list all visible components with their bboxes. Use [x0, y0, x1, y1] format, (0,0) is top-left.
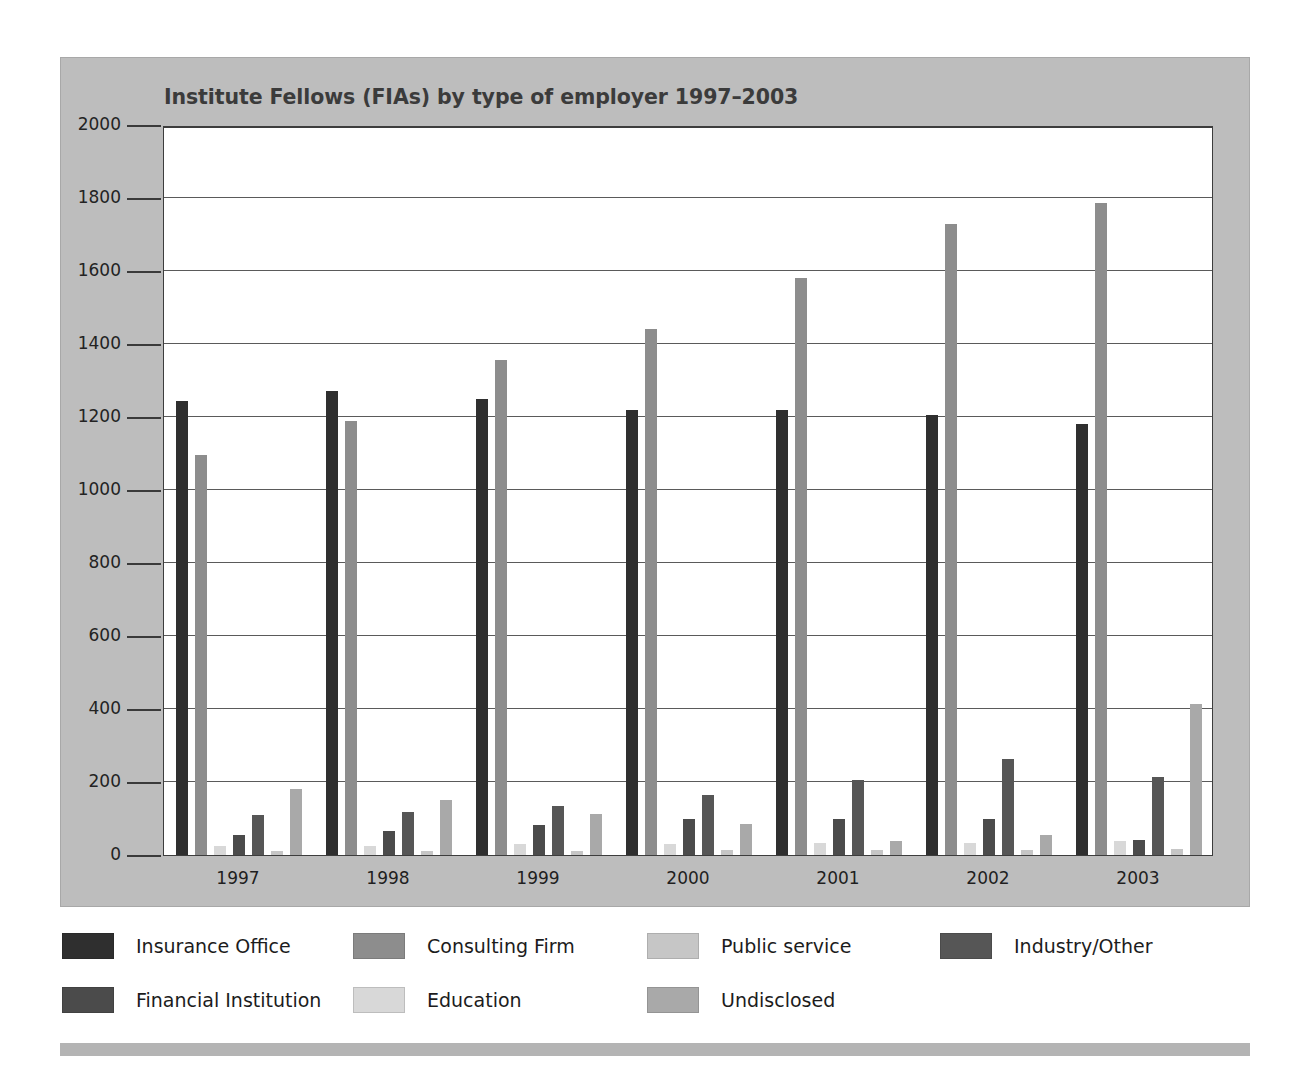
bar [776, 410, 788, 855]
y-axis-tick-mark [127, 855, 161, 857]
gridline [164, 416, 1212, 417]
gridline [164, 781, 1212, 782]
bar [476, 399, 488, 855]
legend-item[interactable]: Financial Institution [62, 987, 321, 1013]
y-axis-tick-mark [127, 125, 161, 127]
bar [721, 850, 733, 855]
legend-item-label: Public service [721, 935, 851, 957]
chart-page: Institute Fellows (FIAs) by type of empl… [0, 0, 1310, 1085]
bar [271, 851, 283, 855]
x-axis-tick-label: 1997 [163, 868, 313, 888]
gridline [164, 562, 1212, 563]
bar [495, 360, 507, 855]
bar [252, 815, 264, 855]
legend-item-label: Education [427, 989, 522, 1011]
y-axis-tick-mark [127, 271, 161, 273]
x-axis-tick-label: 2000 [613, 868, 763, 888]
bar [683, 819, 695, 855]
legend-item[interactable]: Undisclosed [647, 987, 835, 1013]
bar [983, 819, 995, 855]
bar [552, 806, 564, 855]
plot-area [163, 126, 1213, 856]
x-axis-tick-label: 2001 [763, 868, 913, 888]
bar [533, 825, 545, 855]
legend-swatch-icon [353, 987, 405, 1013]
y-axis-tick-label: 0 [61, 844, 125, 864]
x-axis: 1997199819992000200120022003 [163, 856, 1213, 904]
legend-item[interactable]: Public service [647, 933, 851, 959]
y-axis-tick-label: 600 [61, 625, 125, 645]
gridline [164, 635, 1212, 636]
bar [702, 795, 714, 855]
legend-item[interactable]: Insurance Office [62, 933, 291, 959]
bar [926, 415, 938, 855]
bottom-rule [60, 1043, 1250, 1056]
legend-item[interactable]: Industry/Other [940, 933, 1153, 959]
bar [626, 410, 638, 855]
bar [514, 844, 526, 855]
bar [833, 819, 845, 855]
y-axis-tick-mark [127, 198, 161, 200]
legend-swatch-icon [647, 987, 699, 1013]
bar [1171, 849, 1183, 855]
x-axis-tick-label: 1998 [313, 868, 463, 888]
y-axis-tick-mark [127, 782, 161, 784]
y-axis-tick-label: 1600 [61, 260, 125, 280]
legend-swatch-icon [940, 933, 992, 959]
bar [571, 851, 583, 855]
bar [852, 780, 864, 855]
gridline [164, 708, 1212, 709]
legend-swatch-icon [62, 933, 114, 959]
gridline [164, 270, 1212, 271]
gridline [164, 197, 1212, 198]
y-axis-tick-label: 1200 [61, 406, 125, 426]
bar [214, 846, 226, 855]
bar [1190, 704, 1202, 855]
bar [1133, 840, 1145, 855]
bar [795, 278, 807, 855]
bar [326, 391, 338, 855]
bar [290, 789, 302, 855]
bar [740, 824, 752, 855]
bar [345, 421, 357, 855]
bar [590, 814, 602, 855]
y-axis-tick-label: 2000 [61, 114, 125, 134]
legend-item-label: Insurance Office [136, 935, 291, 957]
y-axis-tick-mark [127, 636, 161, 638]
y-axis-tick-mark [127, 563, 161, 565]
x-axis-tick-label: 1999 [463, 868, 613, 888]
bar [421, 851, 433, 855]
y-axis-tick-mark [127, 490, 161, 492]
y-axis-tick-mark [127, 709, 161, 711]
y-axis-tick-label: 1800 [61, 187, 125, 207]
legend-item[interactable]: Education [353, 987, 522, 1013]
bar [664, 844, 676, 855]
bar [1152, 777, 1164, 855]
x-axis-tick-label: 2002 [913, 868, 1063, 888]
bar [364, 846, 376, 855]
bar [440, 800, 452, 855]
legend-item-label: Industry/Other [1014, 935, 1153, 957]
bar [945, 224, 957, 855]
y-axis-tick-label: 1400 [61, 333, 125, 353]
legend-item-label: Consulting Firm [427, 935, 575, 957]
bar [233, 835, 245, 855]
legend-item[interactable]: Consulting Firm [353, 933, 575, 959]
legend-swatch-icon [62, 987, 114, 1013]
y-axis-tick-label: 1000 [61, 479, 125, 499]
chart-legend: Insurance OfficeConsulting FirmPublic se… [60, 925, 1250, 1030]
bar [402, 812, 414, 855]
y-axis-tick-label: 400 [61, 698, 125, 718]
x-axis-tick-label: 2003 [1063, 868, 1213, 888]
y-axis-tick-label: 200 [61, 771, 125, 791]
bar [1095, 203, 1107, 855]
legend-item-label: Undisclosed [721, 989, 835, 1011]
bar [1021, 850, 1033, 855]
bar [1114, 841, 1126, 855]
gridline [164, 489, 1212, 490]
bar [176, 401, 188, 855]
bar [1076, 424, 1088, 855]
bar [814, 843, 826, 855]
chart-title: Institute Fellows (FIAs) by type of empl… [164, 85, 798, 109]
legend-item-label: Financial Institution [136, 989, 321, 1011]
